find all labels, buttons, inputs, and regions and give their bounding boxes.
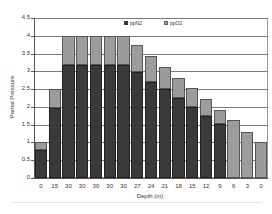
bar bbox=[104, 18, 116, 178]
x-axis bbox=[34, 178, 268, 179]
bar bbox=[145, 18, 157, 178]
bar-segment-ppo2 bbox=[62, 36, 74, 65]
legend-label-ppn2: ppN2 bbox=[130, 20, 142, 26]
divider bbox=[12, 202, 262, 203]
bar bbox=[62, 18, 74, 178]
y-tick-label: 4 bbox=[10, 32, 30, 38]
bar-segment-ppo2 bbox=[104, 36, 116, 65]
bar bbox=[159, 18, 171, 178]
bar bbox=[90, 18, 102, 178]
bar-segment-ppn2 bbox=[172, 98, 184, 178]
x-tick-label: 30 bbox=[75, 183, 89, 189]
x-axis-label: Depth (m) bbox=[120, 193, 180, 199]
legend: ppN2 ppO2 bbox=[124, 20, 182, 26]
bar-segment-ppn2 bbox=[104, 65, 116, 178]
legend-item-ppo2: ppO2 bbox=[164, 20, 182, 26]
y-tick-label: 3.5 bbox=[10, 50, 30, 56]
bar-segment-ppo2 bbox=[255, 142, 267, 178]
bar-segment-ppo2 bbox=[49, 89, 61, 108]
bar bbox=[255, 18, 267, 178]
x-tick-label: 18 bbox=[172, 183, 186, 189]
x-tick-label: 30 bbox=[103, 183, 117, 189]
x-tick-label: 21 bbox=[158, 183, 172, 189]
x-tick-label: 12 bbox=[199, 183, 213, 189]
bar-segment-ppo2 bbox=[131, 45, 143, 73]
bar-segment-ppn2 bbox=[186, 107, 198, 178]
bar-segment-ppn2 bbox=[90, 65, 102, 178]
bar bbox=[241, 18, 253, 178]
x-tick-label: 3 bbox=[240, 183, 254, 189]
bar bbox=[35, 18, 47, 178]
y-tick-label: 1 bbox=[10, 138, 30, 144]
x-tick-label: 30 bbox=[89, 183, 103, 189]
bar-segment-ppn2 bbox=[117, 65, 129, 178]
y-tick-label: 0.5 bbox=[10, 156, 30, 162]
bar-segment-ppn2 bbox=[131, 72, 143, 178]
bar-series bbox=[34, 18, 268, 178]
x-tick-label: 30 bbox=[61, 183, 75, 189]
bar-segment-ppn2 bbox=[49, 108, 61, 178]
bar-segment-ppo2 bbox=[227, 120, 239, 178]
x-tick-label: 24 bbox=[144, 183, 158, 189]
x-tick-label: 9 bbox=[213, 183, 227, 189]
bar bbox=[131, 18, 143, 178]
bar bbox=[49, 18, 61, 178]
x-tick-label: 30 bbox=[116, 183, 130, 189]
bar-segment-ppo2 bbox=[172, 78, 184, 98]
legend-swatch-ppo2 bbox=[164, 21, 168, 25]
bar-segment-ppn2 bbox=[159, 89, 171, 178]
bar bbox=[76, 18, 88, 178]
bar-segment-ppn2 bbox=[76, 65, 88, 178]
legend-label-ppo2: ppO2 bbox=[170, 20, 182, 26]
bar-segment-ppn2 bbox=[200, 116, 212, 178]
y-axis-label: Partial Pressure bbox=[9, 67, 15, 127]
y-tick-label: 0 bbox=[10, 174, 30, 180]
x-tick-label: 27 bbox=[130, 183, 144, 189]
bar-segment-ppo2 bbox=[90, 36, 102, 65]
bar-segment-ppo2 bbox=[241, 132, 253, 178]
bar-segment-ppn2 bbox=[62, 65, 74, 178]
bar-segment-ppo2 bbox=[76, 36, 88, 65]
bar-segment-ppo2 bbox=[200, 99, 212, 116]
x-tick-label: 15 bbox=[185, 183, 199, 189]
bar-segment-ppn2 bbox=[145, 82, 157, 178]
x-tick-label: 6 bbox=[227, 183, 241, 189]
bar bbox=[186, 18, 198, 178]
bar-segment-ppo2 bbox=[145, 56, 157, 82]
bar-segment-ppn2 bbox=[35, 150, 47, 178]
legend-swatch-ppn2 bbox=[124, 21, 128, 25]
x-tick-label: 0 bbox=[34, 183, 48, 189]
bar bbox=[227, 18, 239, 178]
bar-segment-ppo2 bbox=[35, 142, 47, 149]
legend-item-ppn2: ppN2 bbox=[124, 20, 142, 26]
x-tick-label: 15 bbox=[48, 183, 62, 189]
y-axis bbox=[34, 18, 35, 179]
bar-segment-ppn2 bbox=[214, 124, 226, 178]
bar-segment-ppo2 bbox=[159, 67, 171, 90]
bar bbox=[200, 18, 212, 178]
bar-segment-ppo2 bbox=[186, 88, 198, 106]
x-tick-label: 0 bbox=[254, 183, 268, 189]
y-tick-label: 4.5 bbox=[10, 14, 30, 20]
bar bbox=[214, 18, 226, 178]
bar bbox=[117, 18, 129, 178]
bar bbox=[172, 18, 184, 178]
bar-segment-ppo2 bbox=[117, 36, 129, 65]
bar-segment-ppo2 bbox=[214, 110, 226, 124]
